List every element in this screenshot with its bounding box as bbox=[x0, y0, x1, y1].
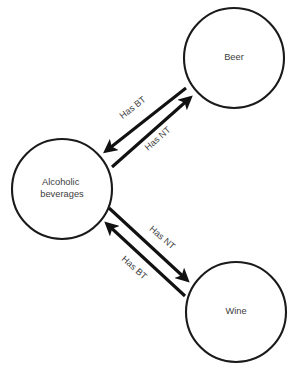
node-label-line1: Alcoholic bbox=[42, 177, 80, 187]
node-label-wine: Wine bbox=[225, 306, 246, 316]
node-wine[interactable]: Wine bbox=[186, 262, 286, 362]
node-beer[interactable]: Beer bbox=[184, 8, 284, 108]
node-label-beer: Beer bbox=[224, 52, 244, 62]
edge-alcoholic-to-wine: Has NT bbox=[109, 208, 187, 280]
node-alcoholic-beverages[interactable]: Alcoholic beverages bbox=[12, 139, 112, 239]
diagram-canvas: Has BT Has NT Has NT Has BT Beer Alcohol… bbox=[0, 0, 293, 372]
node-label-line2: beverages bbox=[40, 189, 84, 199]
diagram-svg: Has BT Has NT Has NT Has BT Beer Alcohol… bbox=[0, 0, 293, 372]
edge-wine-to-alcoholic: Has BT bbox=[107, 224, 185, 296]
edge-line bbox=[107, 224, 185, 296]
edge-label-has-bt-beer: Has BT bbox=[118, 94, 148, 121]
edge-label-has-nt-beer: Has NT bbox=[143, 124, 173, 152]
